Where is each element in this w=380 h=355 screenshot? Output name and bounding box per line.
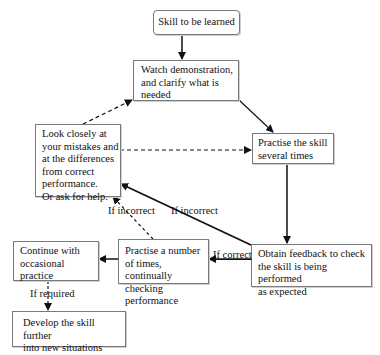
label-if-required: If required	[30, 288, 75, 299]
node-label: Watch demonstration, and clarify what is…	[141, 64, 238, 102]
node-watch-demonstration: Watch demonstration, and clarify what is…	[133, 60, 239, 101]
node-continue-practice: Continue with occasional practice	[13, 241, 99, 281]
node-label: Develop the skill further into new situa…	[23, 317, 125, 355]
arrow-watch-to-practise-skill	[239, 100, 273, 132]
node-label: Obtain feedback to check the skill is be…	[258, 248, 371, 298]
label-if-incorrect-dashed: If incorrect	[108, 205, 155, 216]
node-look-closely: Look closely at your mistakes and at the…	[35, 124, 121, 197]
node-label: Practise the skill several times	[258, 137, 333, 162]
node-practise-number: Practise a number of times, continually …	[118, 239, 209, 284]
arrow-look-to-watch	[83, 100, 132, 124]
node-label: Continue with occasional practice	[20, 245, 98, 283]
node-label: Practise a number of times, continually …	[125, 245, 208, 308]
label-if-incorrect-solid: If incorrect	[171, 205, 218, 216]
node-label: Skill to be learned	[154, 16, 239, 29]
node-practise-skill: Practise the skill several times	[252, 133, 334, 164]
node-label: Look closely at your mistakes and at the…	[42, 128, 120, 203]
node-skill-to-be-learned: Skill to be learned	[153, 10, 240, 35]
node-obtain-feedback: Obtain feedback to check the skill is be…	[251, 244, 372, 287]
arrow-practise-number-to-look	[113, 197, 153, 239]
label-if-correct: If correct	[213, 249, 252, 260]
node-develop-skill: Develop the skill further into new situa…	[12, 311, 126, 347]
